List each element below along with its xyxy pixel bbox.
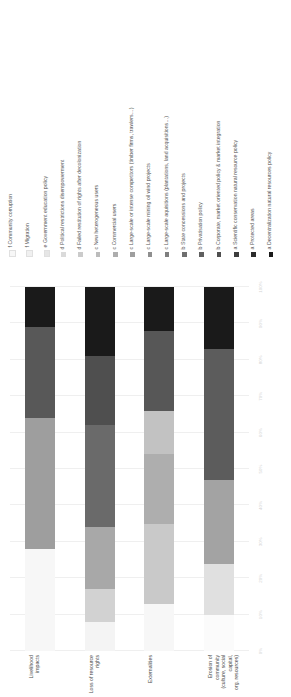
bar-segment[interactable] — [85, 527, 115, 589]
legend-label: d Political restrictions disempowerment — [60, 160, 65, 250]
y-axis-tick-label: 10% — [258, 610, 263, 619]
legend-swatch — [234, 252, 239, 257]
bar-segment[interactable] — [144, 454, 174, 523]
y-axis-tick-label: 20% — [258, 574, 263, 583]
bar-segment[interactable] — [144, 331, 174, 411]
y-axis-tick-label: 0% — [258, 648, 263, 655]
bar-segment[interactable] — [204, 480, 234, 564]
legend-label: c Commercial users — [112, 204, 117, 250]
legend-swatch — [113, 252, 118, 257]
legend-label: b State concessions and projects — [181, 173, 186, 249]
bar-segment[interactable] — [144, 411, 174, 455]
bar-row — [144, 287, 174, 651]
bar-segment[interactable] — [204, 287, 234, 349]
y-axis-tick-label: 50% — [258, 464, 263, 473]
legend-label: c Large-scale mining oil wind projects — [146, 163, 151, 249]
y-axis-tick-label: 40% — [258, 501, 263, 510]
bar-series-container — [10, 287, 249, 651]
legend-swatch — [199, 252, 204, 257]
legend-label: c New heterogeneous users — [94, 185, 99, 250]
legend-swatch — [182, 252, 187, 257]
figure-canvas: 100%90%80%70%60%50%40%30%20%10%0% Liveli… — [0, 0, 291, 697]
legend-swatch — [269, 252, 274, 257]
bar-segment[interactable] — [85, 622, 115, 651]
y-axis-tick-label: 30% — [258, 537, 263, 546]
legend-item[interactable]: d Political restrictions disempowerment — [60, 7, 77, 257]
legend-item[interactable]: e Government education policy — [43, 7, 60, 257]
bar-row — [85, 287, 115, 651]
legend-item[interactable]: c Large-scale aquisitions (plantations, … — [164, 7, 181, 257]
stacked-bar[interactable] — [144, 287, 174, 651]
bar-segment[interactable] — [204, 349, 234, 480]
bar-segment[interactable] — [85, 425, 115, 527]
bar-segment[interactable] — [144, 524, 174, 604]
legend-label: a Decentralization natural resources pol… — [267, 152, 272, 250]
stacked-bar[interactable] — [25, 287, 55, 651]
bar-segment[interactable] — [204, 564, 234, 615]
legend-swatch — [9, 250, 16, 257]
bar-segment[interactable] — [85, 589, 115, 622]
category-axis-label: Loss of resource rights — [88, 655, 101, 697]
bar-segment[interactable] — [85, 287, 115, 356]
bar-segment[interactable] — [25, 418, 55, 549]
stacked-bar-chart: 100%90%80%70%60%50%40%30%20%10%0% Liveli… — [0, 277, 291, 697]
y-axis-tick-label: 60% — [258, 428, 263, 437]
legend-label: f Migration — [25, 223, 30, 247]
y-axis-tick-label: 100% — [258, 281, 263, 293]
legend-swatch — [96, 252, 101, 257]
stacked-bar[interactable] — [85, 287, 115, 651]
legend-item[interactable]: b Privatisation policy — [198, 7, 215, 257]
bar-segment[interactable] — [204, 615, 234, 651]
legend-item[interactable]: c Large-scale or intense competitors (ti… — [129, 7, 146, 257]
bar-segment[interactable] — [85, 356, 115, 425]
legend-item[interactable]: a Protected areas — [250, 7, 267, 257]
legend-label: a Scientific conservation natural resour… — [233, 140, 238, 250]
legend-item[interactable]: b Corporate, market oriented policy & ma… — [216, 7, 233, 257]
y-axis-tick-label: 90% — [258, 319, 263, 328]
legend-swatch — [251, 252, 256, 257]
category-axis-label: Externalities — [147, 655, 154, 697]
legend-swatch — [148, 252, 153, 257]
legend-item[interactable]: b State concessions and projects — [181, 7, 198, 257]
legend-label: b Privatisation policy — [198, 202, 203, 249]
stacked-bar[interactable] — [204, 287, 234, 651]
category-axis-label: Livelihood impacts — [28, 655, 41, 697]
figure-frame: 100%90%80%70%60%50%40%30%20%10%0% Liveli… — [0, 0, 291, 697]
legend-swatch — [130, 252, 135, 257]
y-axis-tick-label: 70% — [258, 392, 263, 401]
bar-row — [25, 287, 55, 651]
legend-item[interactable]: d Failed restitution of rights after dec… — [77, 7, 94, 257]
legend-swatch — [165, 252, 170, 257]
bar-segment[interactable] — [25, 287, 55, 327]
chart-legend: f Community corruptionf Migratione Gover… — [8, 7, 284, 257]
bar-segment[interactable] — [144, 604, 174, 651]
legend-label: b Corporate, market oriented policy & ma… — [216, 121, 221, 250]
legend-label: e Government education policy — [43, 176, 48, 248]
legend-label: a Protected areas — [250, 208, 255, 249]
legend-item[interactable]: c Large-scale mining oil wind projects — [146, 7, 163, 257]
category-axis-label: Erosion of community (culture, social ca… — [207, 655, 240, 697]
legend-swatch — [61, 252, 66, 257]
bar-segment[interactable] — [25, 327, 55, 418]
legend-item[interactable]: c New heterogeneous users — [94, 7, 111, 257]
legend-label: c Large-scale aquisitions (plantations, … — [164, 116, 169, 250]
legend-label: c Large-scale or intense competitors (ti… — [129, 108, 134, 250]
legend-item[interactable]: f Migration — [25, 7, 42, 257]
legend-label: f Community corruption — [8, 194, 13, 248]
plot-area — [10, 287, 249, 651]
y-axis-tick-label: 80% — [258, 355, 263, 364]
legend-swatch — [44, 250, 51, 257]
bar-segment[interactable] — [25, 549, 55, 651]
bar-row — [204, 287, 234, 651]
legend-label: d Failed restitution of rights after dec… — [77, 141, 82, 250]
legend-item[interactable]: f Community corruption — [8, 7, 25, 257]
legend-item[interactable]: a Decentralization natural resources pol… — [267, 7, 284, 257]
legend-swatch — [78, 252, 83, 257]
legend-item[interactable]: c Commercial users — [112, 7, 129, 257]
legend-swatch — [26, 250, 33, 257]
legend-swatch — [217, 252, 222, 257]
legend-item[interactable]: a Scientific conservation natural resour… — [233, 7, 250, 257]
bar-segment[interactable] — [144, 287, 174, 331]
